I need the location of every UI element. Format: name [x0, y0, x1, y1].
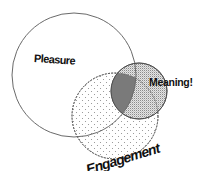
meaning-label: Meaning! [149, 76, 193, 88]
venn-diagram: Pleasure Meaning! Engagement [0, 0, 209, 171]
pleasure-label: Pleasure [34, 52, 76, 67]
